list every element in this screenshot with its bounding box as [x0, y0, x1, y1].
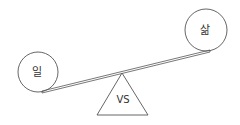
- left-weight-label: 일: [32, 67, 42, 78]
- fulcrum-label: VS: [116, 95, 129, 105]
- balance-scale-diagram: [0, 0, 240, 125]
- right-weight-label: 삶: [200, 25, 210, 36]
